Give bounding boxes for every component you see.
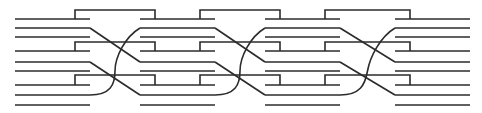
- crossing-link-curve: [340, 28, 395, 95]
- diagram-canvas: [0, 0, 482, 113]
- crossing-link: [340, 28, 395, 62]
- bracket-connector: [200, 42, 280, 51]
- bracket-connector: [325, 75, 410, 85]
- bracket-connector: [200, 10, 280, 19]
- bracket-connector: [75, 42, 155, 51]
- bracket-connector: [75, 10, 155, 19]
- crossing-link-curve: [215, 28, 265, 95]
- crossing-link: [340, 62, 395, 95]
- bracket-connector: [325, 10, 410, 19]
- bracket-connector: [325, 42, 410, 51]
- crossing-link-curve: [90, 28, 140, 95]
- wiring-diagram: [0, 0, 482, 113]
